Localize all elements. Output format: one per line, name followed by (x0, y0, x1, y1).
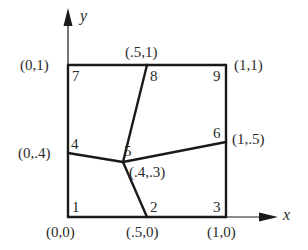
node-label-1: 1 (72, 200, 80, 215)
y-axis-arrowhead-icon (64, 8, 73, 26)
coord-label-2: (.5,0) (126, 225, 159, 240)
node-label-2: 2 (150, 200, 158, 215)
node-label-8: 8 (150, 69, 158, 84)
coord-label-3: (1,0) (207, 225, 236, 240)
coord-label-5: (.4,.3) (129, 165, 165, 180)
coord-label-6: (1,.5) (232, 132, 265, 147)
coord-label-8: (.5,1) (125, 45, 158, 60)
coord-label-4: (0,.4) (18, 146, 51, 161)
edge-4-5 (68, 153, 123, 162)
node-label-3: 3 (213, 200, 221, 215)
y-axis-label: y (80, 8, 87, 23)
coord-label-1: (0,0) (46, 225, 75, 240)
node-label-4: 4 (71, 137, 79, 152)
node-label-7: 7 (72, 69, 80, 84)
node-label-9: 9 (213, 69, 221, 84)
node-label-6: 6 (213, 126, 221, 141)
x-axis-label: x (283, 207, 290, 222)
node-label-5: 5 (124, 144, 132, 159)
coord-label-9: (1,1) (234, 58, 263, 73)
x-axis-arrowhead-icon (259, 213, 278, 222)
edge-5-6 (123, 142, 226, 162)
coord-label-7: (0,1) (20, 58, 49, 73)
